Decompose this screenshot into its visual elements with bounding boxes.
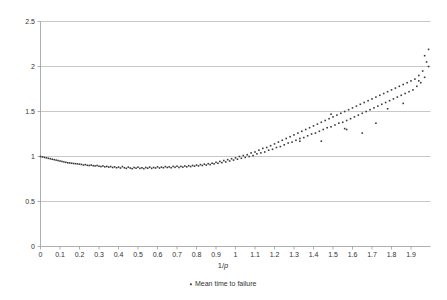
data-point <box>385 102 387 104</box>
x-tick-label-3: 0.3 <box>94 251 104 258</box>
data-point <box>338 122 340 124</box>
data-point <box>186 166 188 168</box>
data-point <box>260 152 262 154</box>
data-point <box>106 166 108 168</box>
data-point <box>266 147 268 149</box>
x-tick-label-5: 0.5 <box>133 251 143 258</box>
data-point <box>112 167 114 169</box>
data-point <box>110 166 112 168</box>
data-point <box>248 156 250 158</box>
y-tick-label-1: 0.5 <box>25 198 35 205</box>
data-point <box>291 141 293 143</box>
data-point <box>285 138 287 140</box>
data-point <box>276 147 278 149</box>
data-point <box>268 149 270 151</box>
data-point <box>219 161 221 163</box>
data-point <box>340 113 342 115</box>
data-point <box>176 165 178 167</box>
data-point <box>137 166 139 168</box>
data-point <box>297 132 299 134</box>
x-tick-label-15: 1.5 <box>328 251 338 258</box>
data-point <box>151 168 153 170</box>
data-point <box>233 159 235 161</box>
data-point <box>295 140 297 142</box>
data-point <box>262 148 264 150</box>
data-point <box>96 165 98 167</box>
x-tick-label-0: 0 <box>39 251 43 258</box>
data-point <box>190 166 192 168</box>
data-point <box>213 163 215 165</box>
data-point <box>402 84 404 86</box>
data-point <box>61 161 63 163</box>
chart-container: 00.511.522.5 00.10.20.30.40.50.60.70.80.… <box>0 0 447 300</box>
data-point <box>153 167 155 169</box>
data-point <box>42 156 44 158</box>
data-point <box>356 105 358 107</box>
data-point <box>143 168 145 170</box>
data-point <box>182 166 184 168</box>
data-point <box>239 156 241 158</box>
data-point <box>141 167 143 169</box>
data-point <box>400 95 402 97</box>
x-tick-label-4: 0.4 <box>114 251 124 258</box>
data-point <box>102 165 104 167</box>
data-point <box>209 164 211 166</box>
data-point <box>391 89 393 91</box>
data-point <box>311 133 313 135</box>
x-tick-label-7: 0.7 <box>172 251 182 258</box>
data-point <box>309 127 311 129</box>
data-point <box>165 166 167 168</box>
data-point <box>168 166 170 168</box>
data-point <box>170 167 172 169</box>
x-tick-label-8: 0.8 <box>192 251 202 258</box>
data-point <box>159 167 161 169</box>
x-tick-label-18: 1.8 <box>387 251 397 258</box>
y-tick-label-2: 1 <box>31 153 35 160</box>
data-point <box>51 158 53 160</box>
x-tick-label-12: 1.2 <box>270 251 280 258</box>
data-point <box>278 141 280 143</box>
data-point <box>328 118 330 120</box>
data-point <box>81 164 83 166</box>
data-point <box>319 131 321 133</box>
data-point <box>387 108 389 110</box>
data-point <box>428 66 430 68</box>
data-point <box>324 120 326 122</box>
x-tick-label-2: 0.2 <box>75 251 85 258</box>
data-point <box>122 166 124 168</box>
data-point <box>424 55 426 57</box>
chart-background <box>0 0 447 300</box>
x-tick-label-17: 1.7 <box>367 251 377 258</box>
data-point <box>336 114 338 116</box>
data-point <box>198 165 200 167</box>
data-point <box>120 167 122 169</box>
data-point <box>221 162 223 164</box>
data-point <box>104 166 106 168</box>
y-tick-label-5: 2.5 <box>25 18 35 25</box>
data-point <box>363 102 365 104</box>
data-point <box>188 165 190 167</box>
data-point <box>161 166 163 168</box>
data-point <box>317 123 319 125</box>
data-point <box>204 163 206 165</box>
data-point <box>53 159 55 161</box>
data-point <box>211 162 213 164</box>
data-point <box>157 166 159 168</box>
x-tick-label-14: 1.4 <box>309 251 319 258</box>
x-tick-label-10: 1 <box>234 251 238 258</box>
x-axis-title: 1/p <box>218 261 228 270</box>
data-point <box>346 129 348 131</box>
data-point <box>55 159 57 161</box>
data-point <box>73 163 75 165</box>
data-point <box>127 166 129 168</box>
data-point <box>166 167 168 169</box>
data-point <box>184 165 186 167</box>
data-point <box>342 122 344 124</box>
data-point <box>280 146 282 148</box>
data-point <box>57 160 59 162</box>
x-tick-label-6: 0.6 <box>153 251 163 258</box>
data-point <box>348 109 350 111</box>
data-point <box>354 116 356 118</box>
data-point <box>180 166 182 168</box>
data-point <box>344 111 346 113</box>
